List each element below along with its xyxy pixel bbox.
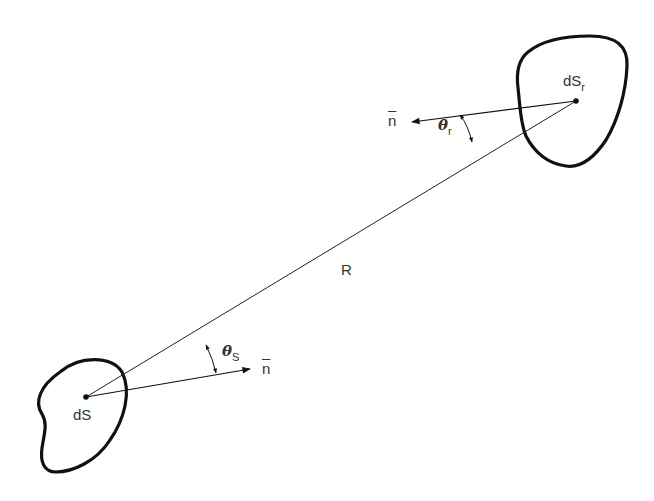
emitter-point <box>83 394 89 400</box>
distance-label-text: R <box>341 261 352 278</box>
receiver-label-subscript: r <box>581 81 585 93</box>
emitter-normal-label-text: n <box>262 360 270 377</box>
theta-s-subscript: S <box>232 351 239 363</box>
emitter-normal-arrow <box>86 369 250 397</box>
receiver-label: dSr <box>563 73 585 88</box>
receiver-label-text: dS <box>563 72 581 89</box>
theta-r-subscript: r <box>448 125 452 137</box>
receiver-normal-arrow <box>412 101 576 122</box>
angle-arc-theta-s <box>206 345 216 373</box>
distance-line <box>86 101 576 397</box>
emitter-label-text: dS <box>73 406 91 423</box>
emitter-normal-label: n <box>262 361 270 376</box>
angle-arc-theta-r <box>460 115 472 142</box>
receiver-point <box>573 98 579 104</box>
emitter-label: dS <box>73 407 91 422</box>
theta-s-label: θS <box>222 343 239 359</box>
theta-r-label: θr <box>438 117 452 133</box>
receiver-normal-label: n <box>388 113 396 128</box>
receiver-normal-label-text: n <box>388 112 396 129</box>
diagram-canvas <box>0 0 654 501</box>
theta-s-symbol: θ <box>222 342 232 360</box>
distance-label: R <box>341 262 352 277</box>
theta-r-symbol: θ <box>438 116 448 134</box>
